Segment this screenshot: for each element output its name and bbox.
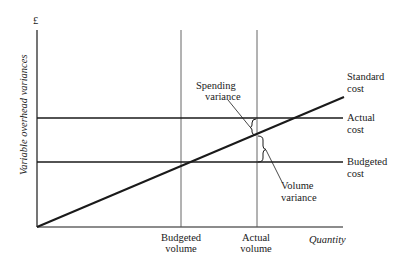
spending-variance-leader xyxy=(228,100,250,127)
budgeted-volume-label-1: Budgeted xyxy=(161,232,202,243)
spending-variance-label-1: Spending xyxy=(196,80,236,91)
budgeted-cost-label-2: cost xyxy=(347,168,364,179)
standard-cost-label-1: Standard xyxy=(347,71,385,82)
actual-volume-label-2: volume xyxy=(240,243,272,254)
spending-variance-brace xyxy=(250,119,256,135)
actual-cost-label-1: Actual xyxy=(347,112,375,123)
budgeted-volume-label-2: volume xyxy=(165,243,197,254)
spending-variance-label-2: variance xyxy=(205,91,241,102)
volume-variance-label-1: Volume xyxy=(281,180,314,191)
standard-cost-label-2: cost xyxy=(347,83,364,94)
x-axis-label: Quantity xyxy=(309,234,346,245)
actual-volume-label-1: Actual xyxy=(242,232,270,243)
variance-diagram: £ Variable overhead variances Standard c… xyxy=(0,0,406,270)
budgeted-cost-label-1: Budgeted xyxy=(347,156,388,167)
y-axis-unit: £ xyxy=(33,15,38,26)
actual-cost-label-2: cost xyxy=(347,124,364,135)
volume-variance-brace xyxy=(258,136,266,162)
volume-variance-leader xyxy=(266,150,282,182)
volume-variance-label-2: variance xyxy=(281,192,317,203)
y-axis-label: Variable overhead variances xyxy=(18,54,29,175)
